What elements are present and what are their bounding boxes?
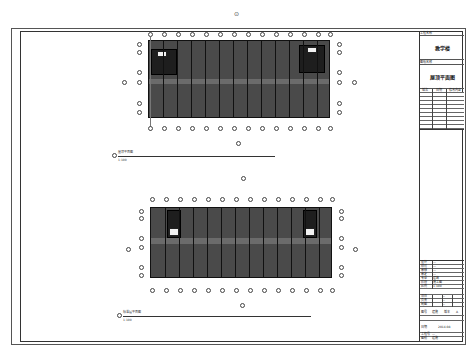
axis-bubble-icon bbox=[192, 288, 197, 293]
axis-bubble-icon bbox=[274, 32, 279, 37]
axis-bubble-icon bbox=[137, 42, 142, 47]
lower-plan-caption: 标准层平面图 bbox=[123, 310, 141, 314]
axis-bubble-icon bbox=[139, 273, 144, 278]
axis-bubble-icon bbox=[137, 101, 142, 106]
axis-bubble-icon bbox=[137, 80, 142, 85]
axis-bubble-icon bbox=[190, 126, 195, 131]
axis-bubble-icon bbox=[339, 209, 344, 214]
axis-bubble-icon bbox=[260, 32, 265, 37]
axis-bubble-icon bbox=[241, 176, 246, 181]
axis-bubble-icon bbox=[162, 32, 167, 37]
axis-bubble-icon bbox=[352, 80, 357, 85]
axis-bubble-icon bbox=[290, 288, 295, 293]
axis-bubble-icon bbox=[234, 288, 239, 293]
lower-plan-floor bbox=[150, 207, 332, 278]
axis-bubble-icon bbox=[288, 126, 293, 131]
axis-bubble-icon bbox=[218, 126, 223, 131]
axis-bubble-icon bbox=[339, 273, 344, 278]
axis-bubble-icon bbox=[190, 32, 195, 37]
axis-bubble-icon bbox=[178, 197, 183, 202]
axis-bubble-icon bbox=[339, 236, 344, 241]
axis-bubble-icon bbox=[139, 265, 144, 270]
axis-bubble-icon bbox=[328, 32, 333, 37]
axis-bubble-icon bbox=[337, 50, 342, 55]
axis-bubble-icon bbox=[302, 126, 307, 131]
lower-plan-scale: 1:100 bbox=[123, 318, 132, 322]
axis-bubble-icon bbox=[304, 288, 309, 293]
axis-bubble-icon bbox=[318, 288, 323, 293]
axis-bubble-icon bbox=[162, 126, 167, 131]
axis-bubble-icon bbox=[232, 32, 237, 37]
axis-bubble-icon bbox=[288, 32, 293, 37]
axis-bubble-icon bbox=[246, 126, 251, 131]
axis-bubble-icon bbox=[126, 247, 131, 252]
axis-bubble-icon bbox=[234, 197, 239, 202]
axis-bubble-icon bbox=[137, 70, 142, 75]
upper-plan-floor bbox=[148, 40, 330, 118]
axis-bubble-icon bbox=[139, 245, 144, 250]
axis-bubble-icon bbox=[274, 126, 279, 131]
axis-bubble-icon bbox=[148, 126, 153, 131]
lower-caption-line bbox=[123, 316, 311, 317]
axis-bubble-icon bbox=[240, 303, 245, 308]
axis-bubble-icon bbox=[204, 126, 209, 131]
axis-bubble-icon bbox=[204, 32, 209, 37]
axis-bubble-icon bbox=[139, 216, 144, 221]
axis-bubble-icon bbox=[276, 197, 281, 202]
axis-bubble-icon bbox=[339, 265, 344, 270]
axis-bubble-icon bbox=[150, 197, 155, 202]
axis-bubble-icon bbox=[337, 42, 342, 47]
axis-bubble-icon bbox=[337, 70, 342, 75]
axis-bubble-icon bbox=[220, 288, 225, 293]
axis-bubble-icon bbox=[236, 141, 241, 146]
axis-bubble-icon bbox=[339, 216, 344, 221]
axis-bubble-icon bbox=[246, 32, 251, 37]
axis-bubble-icon bbox=[206, 288, 211, 293]
axis-bubble-icon bbox=[192, 197, 197, 202]
axis-bubble-icon bbox=[150, 288, 155, 293]
axis-bubble-icon bbox=[302, 32, 307, 37]
axis-bubble-icon bbox=[260, 126, 265, 131]
axis-bubble-icon bbox=[337, 80, 342, 85]
axis-bubble-icon bbox=[339, 245, 344, 250]
project-name: 教学楼 bbox=[420, 36, 464, 60]
axis-bubble-icon bbox=[122, 80, 127, 85]
axis-bubble-icon bbox=[337, 101, 342, 106]
upper-plan-caption: 屋顶平面图 bbox=[118, 150, 133, 154]
axis-bubble-icon bbox=[176, 126, 181, 131]
axis-bubble-icon bbox=[248, 197, 253, 202]
title-block: 工程名称 教学楼 图纸名称 屋顶平面图 版次 日期 修改内容 设计— 校对— 审… bbox=[419, 31, 463, 342]
north-marker-icon: ⊙ bbox=[234, 10, 239, 17]
axis-bubble-icon bbox=[316, 32, 321, 37]
axis-bubble-icon bbox=[176, 32, 181, 37]
axis-bubble-icon bbox=[248, 288, 253, 293]
axis-bubble-icon bbox=[164, 288, 169, 293]
axis-bubble-icon bbox=[328, 126, 333, 131]
axis-bubble-icon bbox=[139, 209, 144, 214]
axis-bubble-icon bbox=[318, 197, 323, 202]
axis-bubble-icon bbox=[164, 197, 169, 202]
axis-bubble-icon bbox=[330, 288, 335, 293]
axis-bubble-icon bbox=[353, 247, 358, 252]
axis-bubble-icon bbox=[290, 197, 295, 202]
axis-bubble-icon bbox=[262, 288, 267, 293]
axis-bubble-icon bbox=[220, 197, 225, 202]
axis-bubble-icon bbox=[330, 197, 335, 202]
axis-bubble-icon bbox=[139, 236, 144, 241]
caption-bubble-icon bbox=[117, 313, 122, 318]
axis-bubble-icon bbox=[206, 197, 211, 202]
axis-bubble-icon bbox=[137, 50, 142, 55]
axis-bubble-icon bbox=[304, 197, 309, 202]
axis-bubble-icon bbox=[316, 126, 321, 131]
revision-table bbox=[420, 93, 464, 129]
drawing-name: 屋顶平面图 bbox=[420, 65, 464, 89]
upper-caption-line bbox=[118, 156, 275, 157]
axis-bubble-icon bbox=[276, 288, 281, 293]
axis-bubble-icon bbox=[337, 110, 342, 115]
upper-plan-scale: 1:100 bbox=[118, 158, 127, 162]
axis-bubble-icon bbox=[218, 32, 223, 37]
caption-bubble-icon bbox=[112, 153, 117, 158]
axis-bubble-icon bbox=[137, 110, 142, 115]
axis-bubble-icon bbox=[262, 197, 267, 202]
axis-bubble-icon bbox=[148, 32, 153, 37]
